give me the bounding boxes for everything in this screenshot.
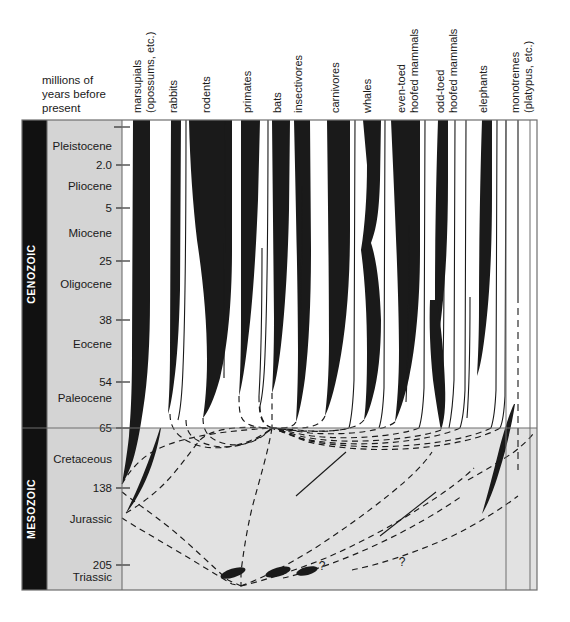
taxon-label-primates: primates [241, 70, 253, 113]
taxon-label-marsupials-line2: (opossums, etc.) [144, 32, 156, 113]
era-label-mesozoic: MESOZOIC [25, 479, 37, 539]
phylogeny-diagram: marsupials(opossums, etc.)rabbitsrodents… [0, 0, 570, 622]
taxon-label-bats: bats [271, 92, 283, 113]
taxon-label-monotremes-line1: monotremes [509, 51, 521, 113]
epoch-label-oligocene: Oligocene [60, 278, 112, 290]
annotation-question-odd-toed-hoofed-mammals: ? [402, 257, 409, 271]
taxon-label-rodents: rodents [200, 76, 212, 113]
taxon-label-elephants: elephants [477, 65, 489, 113]
taxon-label-monotremes-line2: (platypus, etc.) [522, 41, 534, 113]
annotation-question-elephants-stem: ? [319, 559, 326, 573]
annotation-question-monotremes-stem: ? [399, 555, 406, 569]
epoch-label-eocene: Eocene [73, 338, 112, 350]
epoch-label-pleistocene: Pleistocene [53, 140, 112, 152]
epoch-label-paleocene: Paleocene [58, 392, 112, 404]
mesozoic-field [122, 428, 537, 590]
axis-caption-line3: present [42, 102, 81, 114]
epoch-label-triassic: Triassic [73, 571, 112, 583]
epoch-label-miocene: Miocene [69, 227, 112, 239]
taxon-label-odd-toed-hoofed-mammals-line1: odd-toed [434, 70, 446, 113]
taxon-label-even-toed-hoofed-mammals-line1: even-toed [395, 64, 407, 113]
epoch-label-jurassic: Jurassic [70, 513, 112, 525]
taxon-label-carnivores: carnivores [329, 62, 341, 113]
taxon-label-marsupials-line1: marsupials [131, 59, 143, 113]
tick-label-25: 25 [99, 255, 112, 267]
figure-root: marsupials(opossums, etc.)rabbitsrodents… [0, 0, 570, 622]
era-label-cenozoic: CENOZOIC [25, 244, 37, 303]
epoch-label-pliocene: Pliocene [68, 180, 112, 192]
taxon-label-even-toed-hoofed-mammals-line2: hoofed mammals [408, 28, 420, 113]
axis-caption: millions of years before present [42, 74, 106, 114]
tick-label-138: 138 [93, 482, 112, 494]
tick-label-38: 38 [99, 314, 112, 326]
taxon-label-insectivores: insectivores [292, 54, 304, 113]
epoch-label-cretaceous: Cretaceous [53, 453, 112, 465]
taxon-label-rabbits: rabbits [167, 79, 179, 113]
axis-caption-line1: millions of [42, 74, 94, 86]
taxon-label-odd-toed-hoofed-mammals-line2: hoofed mammals [447, 28, 459, 113]
tick-label-54: 54 [99, 376, 112, 388]
tick-label-2.0: 2.0 [96, 159, 112, 171]
tick-label-205: 205 [93, 559, 112, 571]
taxon-label-group: marsupials(opossums, etc.)rabbitsrodents… [131, 28, 534, 114]
tick-label-5: 5 [106, 202, 112, 214]
axis-caption-line2: years before [42, 88, 106, 100]
taxon-label-whales: whales [361, 78, 373, 114]
